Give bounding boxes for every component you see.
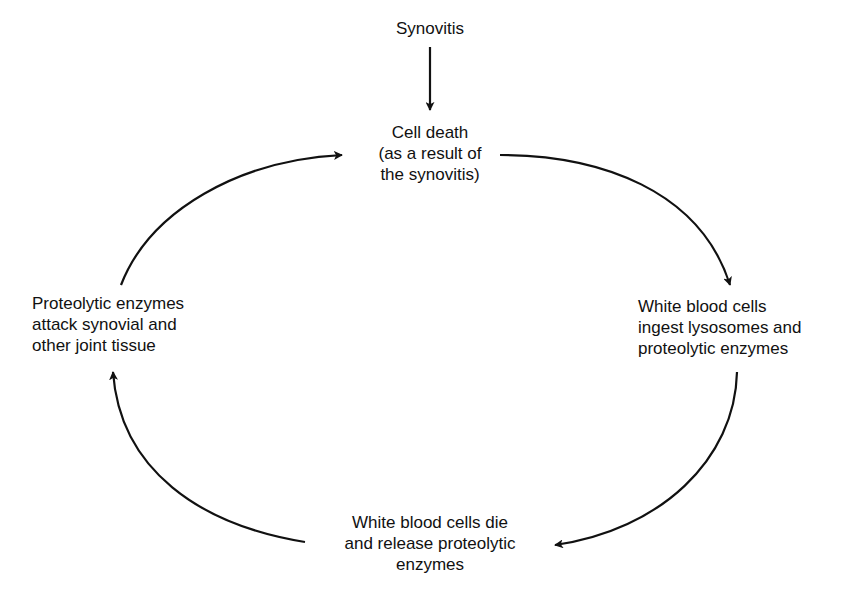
node-cell-death: Cell death (as a result of the synovitis… [330, 122, 530, 185]
node-synovitis: Synovitis [370, 18, 490, 39]
node-enzymes-attack: Proteolytic enzymes attack synovial and … [32, 293, 242, 356]
arrow-wbc-ingest-to-wbc-die [555, 372, 737, 545]
arrow-enzymes-attack-to-cell-death [121, 155, 342, 285]
node-wbc-ingest: White blood cells ingest lysosomes and p… [638, 296, 848, 359]
node-wbc-die: White blood cells die and release proteo… [315, 512, 545, 575]
arrow-wbc-die-to-enzymes-attack [113, 372, 305, 542]
arrow-cell-death-to-wbc-ingest [500, 155, 730, 285]
